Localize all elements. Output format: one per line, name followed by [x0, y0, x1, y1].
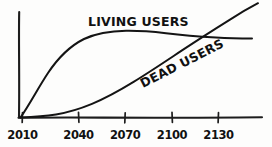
living-users-label: LIVING USERS	[88, 14, 189, 29]
x-axis-label-2100: 2100	[157, 128, 188, 142]
dead-users-label: DEAD USERS	[138, 36, 226, 91]
x-axis-line	[19, 117, 263, 118]
x-axis-label-2070: 2070	[110, 128, 141, 142]
xkcd-style-line-chart: LIVING USERS DEAD USERS 2010 2040 2070 2…	[0, 0, 272, 147]
x-axis-label-2040: 2040	[63, 128, 94, 142]
x-axis-label-2130: 2130	[203, 128, 234, 142]
x-axis-label-2010: 2010	[7, 128, 38, 142]
chart-container: LIVING USERS DEAD USERS 2010 2040 2070 2…	[0, 0, 272, 147]
